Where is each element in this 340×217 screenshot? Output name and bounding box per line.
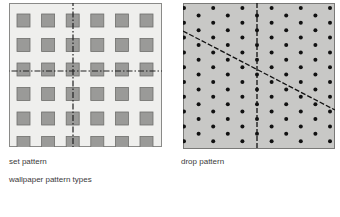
set-pattern-illustration [9, 3, 162, 147]
drop-pattern-panel [183, 3, 335, 149]
drop-pattern-caption: drop pattern [181, 157, 224, 166]
drop-pattern-illustration [183, 3, 335, 149]
figure-title: wallpaper pattern types [9, 175, 92, 184]
set-pattern-panel [9, 3, 162, 147]
set-pattern-caption: set pattern [9, 157, 47, 166]
